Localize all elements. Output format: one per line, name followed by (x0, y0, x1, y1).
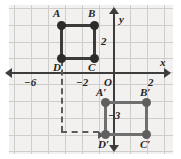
y-axis-line (113, 12, 115, 148)
x-axis-arrow-left-icon (5, 68, 12, 78)
gridline-horizontal (9, 42, 173, 43)
y-tick-label-2: 2 (101, 36, 107, 47)
image-vertex-a-prime (101, 98, 110, 107)
gridline-horizontal (9, 118, 173, 119)
translation-path-horizontal (61, 131, 99, 133)
gridline-vertical (48, 5, 49, 154)
image-label-c-prime: C′ (140, 139, 150, 150)
preimage-label-b: B (88, 8, 95, 19)
image-label-b-prime: B′ (140, 87, 150, 98)
x-axis-arrow-right-icon (164, 68, 171, 78)
image-vertex-b-prime (142, 98, 151, 107)
preimage-vertex-a (57, 21, 66, 30)
y-axis-label: y (119, 14, 124, 25)
preimage-label-c: C (88, 62, 95, 73)
x-tick-label-neg6: −6 (24, 77, 36, 88)
y-axis-arrow-down-icon (109, 145, 119, 152)
image-label-d-prime: D′ (98, 139, 109, 150)
translation-path-vertical (61, 60, 63, 132)
preimage-label-a: A (53, 8, 60, 19)
gridline-vertical (164, 5, 165, 154)
gridline-horizontal (9, 151, 173, 152)
x-axis-label: x (160, 57, 166, 68)
preimage-label-d: D (53, 62, 61, 73)
gridline-vertical (14, 5, 15, 154)
preimage-vertex-b (90, 21, 99, 30)
image-label-a-prime: A′ (96, 87, 106, 98)
coordinate-plane-figure: x y O −6 −2 2 2 −3 A B C D A′ B′ C′ D′ (0, 0, 181, 159)
x-tick-label-neg2: −2 (76, 77, 88, 88)
gridline-vertical (130, 5, 131, 154)
y-tick-label-neg3: −3 (108, 110, 120, 121)
y-axis-arrow-up-icon (109, 7, 119, 14)
